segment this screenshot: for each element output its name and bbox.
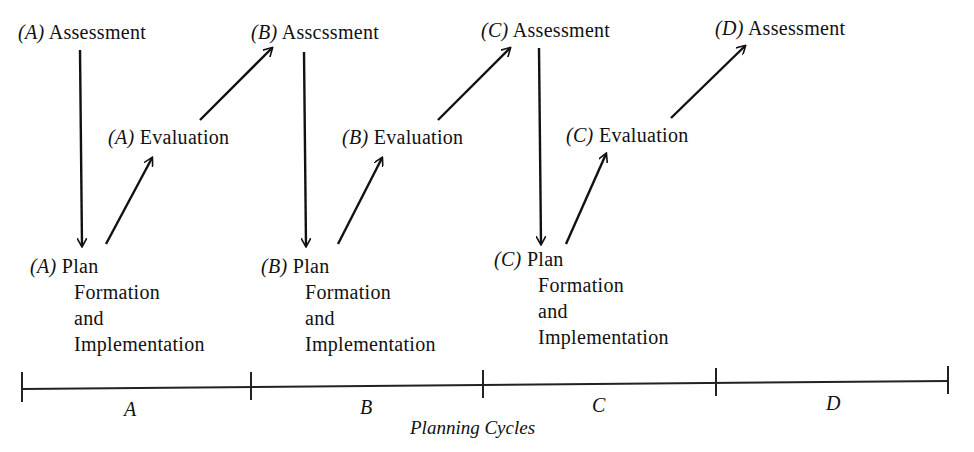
node-text: Asscssment — [282, 21, 379, 43]
node-text: Assessment — [49, 21, 146, 43]
node-prefix: (A) — [18, 21, 44, 43]
node-text: and — [494, 298, 669, 324]
node-b-plan: (B) Plan Formation and Implementation — [261, 253, 436, 357]
node-text: Evaluation — [140, 126, 230, 148]
node-prefix: (B) — [342, 126, 368, 148]
node-prefix: (C) — [481, 19, 509, 41]
arrow-a-assessment-to-plan — [80, 50, 82, 246]
arrow-b-plan-to-evaluation — [338, 158, 382, 244]
node-text: Implementation — [30, 331, 205, 357]
node-a-evaluation: (A) Evaluation — [108, 124, 229, 150]
arrow-c-evaluation-to-d-assessment — [671, 46, 745, 118]
node-text: and — [30, 305, 205, 331]
node-prefix: (B) — [261, 255, 287, 277]
node-text: Formation — [30, 279, 205, 305]
node-text: Evaluation — [374, 126, 464, 148]
diagram-arrows — [0, 0, 974, 452]
arrow-b-evaluation-to-c-assessment — [438, 48, 510, 120]
arrow-c-plan-to-evaluation — [566, 154, 606, 244]
node-prefix: (B) — [251, 21, 277, 43]
node-text: Assessment — [513, 19, 610, 41]
node-text: Plan — [62, 255, 99, 277]
node-d-assessment: (D) Assessment — [715, 15, 845, 41]
node-prefix: (A) — [30, 255, 56, 277]
node-text: Plan — [293, 255, 330, 277]
node-b-assessment: (B) Asscssment — [251, 19, 379, 45]
node-a-assessment: (A) Assessment — [18, 19, 146, 45]
node-b-evaluation: (B) Evaluation — [342, 124, 463, 150]
timeline-segment-label: D — [826, 392, 840, 415]
arrow-c-assessment-to-plan — [539, 48, 541, 244]
node-text: Implementation — [261, 331, 436, 357]
node-c-evaluation: (C) Evaluation — [566, 122, 689, 148]
node-text: Formation — [261, 279, 436, 305]
node-text: Assessment — [748, 17, 845, 39]
node-text: Plan — [527, 248, 564, 270]
node-c-assessment: (C) Assessment — [481, 17, 610, 43]
timeline-caption: Planning Cycles — [410, 417, 535, 439]
node-prefix: (C) — [494, 248, 522, 270]
arrow-a-evaluation-to-b-assessment — [200, 48, 272, 120]
node-text: Evaluation — [599, 124, 689, 146]
node-prefix: (C) — [566, 124, 594, 146]
timeline-segment-label: B — [360, 396, 372, 419]
node-text: Formation — [494, 272, 669, 298]
node-c-plan: (C) Plan Formation and Implementation — [494, 246, 669, 350]
node-text: and — [261, 305, 436, 331]
timeline-segment-label: A — [124, 398, 136, 421]
node-prefix: (A) — [108, 126, 134, 148]
timeline-axis — [22, 381, 948, 389]
node-a-plan: (A) Plan Formation and Implementation — [30, 253, 205, 357]
node-prefix: (D) — [715, 17, 744, 39]
node-text: Implementation — [494, 324, 669, 350]
arrow-a-plan-to-evaluation — [106, 158, 152, 244]
arrow-b-assessment-to-plan — [304, 52, 306, 246]
timeline-segment-label: C — [592, 394, 605, 417]
